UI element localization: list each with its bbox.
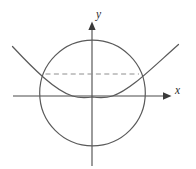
figure-container: x y (0, 0, 196, 169)
conic-intersection-figure: x y (0, 0, 196, 169)
figure-background (0, 0, 196, 169)
x-axis-label: x (174, 84, 181, 96)
y-axis-label: y (95, 8, 102, 21)
